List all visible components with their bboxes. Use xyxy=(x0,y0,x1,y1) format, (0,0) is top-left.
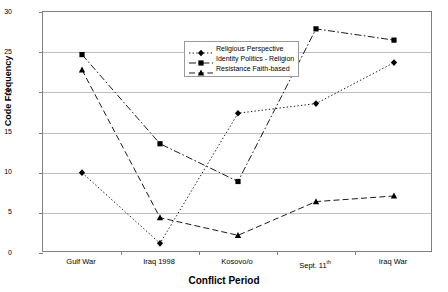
y-axis-tick xyxy=(39,253,43,254)
data-point-marker xyxy=(157,141,162,146)
legend-label: Identity Politics - Religion xyxy=(214,55,294,63)
data-point-marker xyxy=(79,169,85,176)
legend-marker-icon xyxy=(188,54,214,64)
x-axis-tick-label: Iraq 1998 xyxy=(119,258,199,266)
series-1 xyxy=(79,59,397,246)
legend-item-2: Identity Politics - Religion xyxy=(188,54,294,64)
legend-item-3: Resistance Faith-based xyxy=(188,64,294,74)
y-axis-tick-label: 30 xyxy=(0,8,12,15)
data-point-marker xyxy=(235,179,240,184)
plot-area: Religious PerspectiveIdentity Politics -… xyxy=(42,11,432,252)
y-axis-tick-label: 15 xyxy=(0,128,12,135)
data-point-marker xyxy=(391,59,397,66)
data-point-marker xyxy=(157,214,163,220)
data-point-marker xyxy=(235,110,241,117)
legend-label: Resistance Faith-based xyxy=(214,65,290,73)
data-point-marker xyxy=(391,193,397,199)
data-point-marker xyxy=(313,100,319,107)
data-point-marker xyxy=(79,52,84,57)
legend-item-1: Religious Perspective xyxy=(188,44,294,54)
legend-marker-icon xyxy=(188,64,214,74)
series-line xyxy=(82,63,394,244)
series-3 xyxy=(79,66,397,237)
x-axis-title: Conflict Period xyxy=(0,275,448,286)
legend-marker-icon xyxy=(188,44,214,54)
legend-label: Religious Perspective xyxy=(214,45,283,53)
y-axis-tick-label: 10 xyxy=(0,168,12,175)
data-point-marker xyxy=(391,38,396,43)
series-line xyxy=(82,70,394,235)
y-axis-tick-label: 5 xyxy=(0,208,12,215)
chart-legend: Religious PerspectiveIdentity Politics -… xyxy=(184,41,299,77)
data-point-marker xyxy=(313,26,318,31)
data-point-marker xyxy=(79,66,85,72)
y-axis-tick-label: 0 xyxy=(0,249,12,256)
y-axis-tick-label: 25 xyxy=(0,48,12,55)
x-axis-tick-label: Iraq War xyxy=(353,258,433,266)
x-axis-tick-label: Gulf War xyxy=(41,258,121,266)
x-axis-tick-label: Kosovo/o xyxy=(197,258,277,266)
x-axis-tick-label: Sept. 11th xyxy=(275,258,355,270)
chart-container: Code Frequency Religious PerspectiveIden… xyxy=(0,0,448,292)
y-axis-tick-label: 20 xyxy=(0,88,12,95)
